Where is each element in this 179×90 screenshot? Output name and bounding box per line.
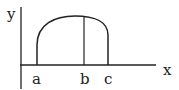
point-a-label: a — [32, 70, 41, 88]
point-c-label: c — [104, 70, 112, 88]
curve-diagram: y x a b c — [0, 0, 179, 90]
curve — [37, 16, 108, 65]
x-axis-label: x — [163, 61, 172, 79]
y-axis-label: y — [6, 5, 16, 23]
point-b-label: b — [80, 70, 90, 88]
